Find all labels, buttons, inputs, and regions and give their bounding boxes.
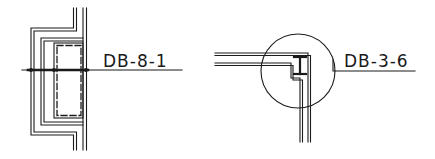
- detail-label-right: DB-3-6: [344, 51, 409, 71]
- callout-circle: [261, 34, 335, 108]
- inner-wall-profile: [41, 38, 83, 125]
- column-pocket: [54, 43, 83, 118]
- detail-drawing: DB-8-1 DB-3-6: [0, 0, 435, 159]
- left-detail: [22, 8, 182, 150]
- i-beam-icon: [294, 57, 306, 74]
- detail-label-left: DB-8-1: [103, 51, 168, 71]
- outer-corner-wall: [215, 53, 311, 142]
- inner-corner-wall: [215, 63, 303, 142]
